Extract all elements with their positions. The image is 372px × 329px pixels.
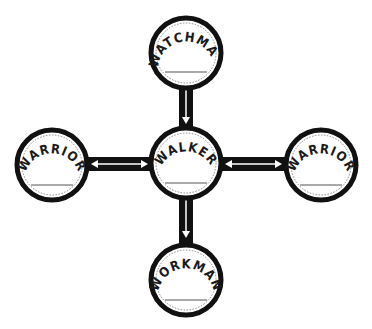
connector-left-center	[86, 157, 152, 171]
diagram-canvas: WATCHMAN WALKER WARRIOR WARRIOR WORKMAN	[0, 0, 372, 329]
connector-top-center	[179, 88, 193, 130]
node-walker[interactable]: WALKER	[151, 128, 221, 198]
connector-center-right	[220, 157, 286, 171]
node-warrior-right[interactable]: WARRIOR	[284, 130, 359, 200]
connector-center-bottom	[179, 196, 193, 246]
node-watchman[interactable]: WATCHMAN	[0, 0, 222, 88]
node-workman[interactable]: WORKMAN	[147, 245, 226, 315]
node-warrior-left[interactable]: WARRIOR	[15, 130, 90, 200]
